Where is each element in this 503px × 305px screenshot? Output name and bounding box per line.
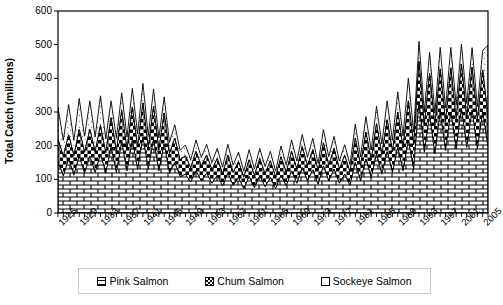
y-tick-label: 500 [20, 40, 52, 50]
brick-swatch-icon [97, 277, 106, 286]
y-tick-label: 0 [20, 208, 52, 218]
y-tick-label: 100 [20, 174, 52, 184]
legend-label-chum-salmon: Chum Salmon [217, 275, 284, 287]
y-tick-label: 200 [20, 141, 52, 151]
legend-item-chum-salmon[interactable]: Chum Salmon [205, 275, 284, 287]
chart-legend: Pink Salmon Chum Salmon Sockeye Salmon [78, 268, 431, 294]
checker-swatch-icon [205, 277, 214, 286]
legend-label-pink-salmon: Pink Salmon [109, 275, 168, 287]
y-tick-label: 600 [20, 6, 52, 16]
x-axis-ticks [58, 213, 488, 217]
legend-label-sockeye-salmon: Sockeye Salmon [333, 275, 412, 287]
dots-swatch-icon [321, 277, 330, 286]
y-tick-label: 400 [20, 73, 52, 83]
y-tick-label: 300 [20, 107, 52, 117]
legend-item-sockeye-salmon[interactable]: Sockeye Salmon [321, 275, 412, 287]
legend-item-pink-salmon[interactable]: Pink Salmon [97, 275, 168, 287]
